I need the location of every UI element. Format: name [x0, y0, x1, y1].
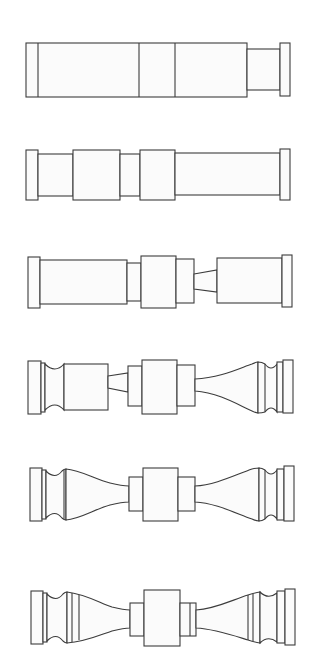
spindle-step-5 — [30, 466, 294, 521]
step — [41, 363, 45, 412]
block — [141, 256, 176, 308]
neck — [127, 263, 141, 301]
block — [142, 360, 177, 414]
spindle-step-2 — [26, 149, 290, 200]
tube — [38, 154, 73, 196]
collar — [129, 477, 143, 511]
neck — [247, 49, 280, 90]
end-cap — [28, 257, 40, 308]
spindle-steps-diagram — [0, 0, 318, 655]
waist — [260, 592, 277, 643]
spindle-step-1 — [26, 43, 290, 97]
main-body — [26, 43, 247, 97]
block — [73, 150, 120, 200]
flare — [195, 468, 259, 521]
block — [140, 150, 175, 200]
tube — [40, 260, 127, 304]
waist — [46, 469, 66, 520]
collar — [128, 366, 142, 406]
end-cap — [285, 589, 295, 645]
taper — [194, 270, 217, 292]
collar — [180, 603, 196, 636]
end-cap — [26, 150, 38, 200]
taper — [108, 373, 128, 392]
step — [43, 593, 47, 642]
block — [144, 590, 180, 646]
end-cap — [284, 466, 294, 521]
waist — [45, 364, 64, 410]
end-cap — [280, 149, 290, 200]
step — [277, 591, 285, 643]
collar — [130, 603, 144, 636]
block — [143, 468, 178, 521]
bead-waist — [259, 468, 277, 521]
end-cap — [282, 255, 292, 307]
end-cap — [30, 468, 42, 521]
tube — [217, 258, 282, 303]
collar — [178, 477, 195, 511]
flare — [196, 592, 260, 643]
end-cap — [28, 361, 41, 414]
tube — [64, 364, 108, 410]
spindle-step-6 — [31, 589, 295, 646]
step — [42, 470, 46, 519]
flare — [195, 362, 258, 413]
end-cap — [280, 43, 290, 96]
end-cap — [283, 360, 293, 413]
collar — [176, 259, 194, 303]
collar — [177, 365, 195, 406]
neck — [120, 154, 140, 196]
tube — [175, 153, 280, 195]
spindle-step-4 — [28, 360, 293, 414]
end-cap — [31, 591, 43, 644]
spindle-step-3 — [28, 255, 292, 308]
bead-waist — [258, 362, 277, 413]
step — [277, 469, 284, 520]
step — [277, 362, 283, 412]
waist — [47, 592, 67, 643]
flare — [67, 592, 130, 643]
flare — [66, 469, 129, 520]
